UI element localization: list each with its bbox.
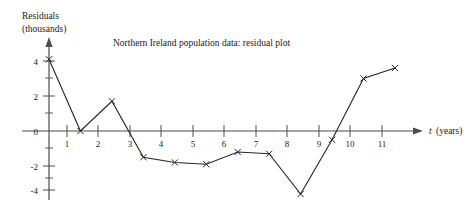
x-tick-label: 6 [222, 139, 227, 149]
x-tick-label: 11 [378, 139, 387, 149]
x-tick-label: 1 [65, 139, 70, 149]
x-axis-label-unit: (years) [436, 126, 462, 137]
x-tick-label: 8 [285, 139, 290, 149]
data-series [46, 56, 398, 197]
x-axis-arrowhead [413, 127, 423, 134]
series-markers [46, 56, 398, 197]
y-axis-arrowhead [45, 37, 52, 47]
y-axis-tick-labels: 4 2 0 -2 -4 [31, 57, 39, 196]
x-axis-label-symbol: t [429, 126, 432, 136]
data-point-marker [329, 137, 335, 143]
x-tick-label: 10 [346, 139, 356, 149]
residual-plot-figure: 4 2 0 -2 -4 1 2 3 4 5 6 7 8 9 10 11 Resi… [0, 0, 473, 211]
x-tick-label: 2 [96, 139, 101, 149]
x-tick-label: 9 [317, 139, 322, 149]
data-point-marker [392, 65, 398, 71]
x-tick-label: 4 [159, 139, 164, 149]
y-tick-label: -2 [31, 162, 39, 172]
x-axis-tick-labels: 1 2 3 4 5 6 7 8 9 10 11 [65, 139, 387, 149]
x-tick-label: 3 [128, 139, 133, 149]
y-axis-label-line2: (thousands) [22, 24, 66, 35]
y-tick-label: 2 [34, 92, 39, 102]
x-tick-label: 5 [191, 139, 196, 149]
chart-title: Northern Ireland population data: residu… [113, 38, 290, 48]
y-tick-label: -4 [31, 186, 39, 196]
x-tick-label: 7 [254, 139, 259, 149]
series-polyline [49, 59, 395, 194]
y-tick-label: 4 [34, 57, 39, 67]
data-point-marker [109, 98, 115, 104]
y-axis-label-line1: Residuals [22, 11, 59, 21]
chart-canvas: 4 2 0 -2 -4 1 2 3 4 5 6 7 8 9 10 11 Resi… [0, 0, 473, 211]
y-tick-label: 0 [34, 127, 39, 137]
data-point-marker [298, 191, 304, 197]
data-point-marker [360, 75, 366, 81]
